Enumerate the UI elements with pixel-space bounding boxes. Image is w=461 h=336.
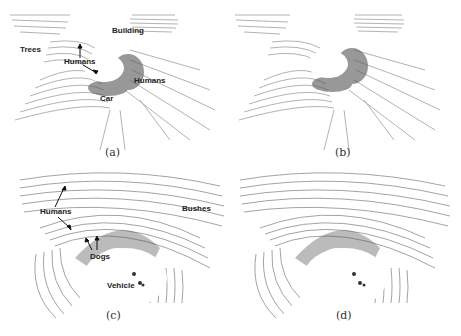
panel-b: (b) xyxy=(230,0,461,168)
label-dogs: Dogs xyxy=(90,252,110,261)
caption-b: (b) xyxy=(335,146,351,159)
point-cloud-b xyxy=(230,0,461,168)
label-bushes: Bushes xyxy=(182,204,211,213)
label-humans-1: Humans xyxy=(64,57,96,66)
label-humans: Humans xyxy=(40,207,72,216)
panel-c: Humans Bushes Dogs Vehicle (c) xyxy=(0,168,231,336)
panel-d: (d) xyxy=(230,168,461,336)
label-building: Building xyxy=(112,26,144,35)
label-car: Car xyxy=(100,94,113,103)
caption-a: (a) xyxy=(105,146,120,159)
caption-c: (c) xyxy=(106,309,121,322)
label-humans-2: Humans xyxy=(134,76,166,85)
panel-a: Trees Building Humans Humans Car (a) xyxy=(0,0,231,168)
label-trees: Trees xyxy=(20,45,41,54)
caption-d: (d) xyxy=(336,309,352,322)
label-vehicle: Vehicle xyxy=(107,281,135,290)
